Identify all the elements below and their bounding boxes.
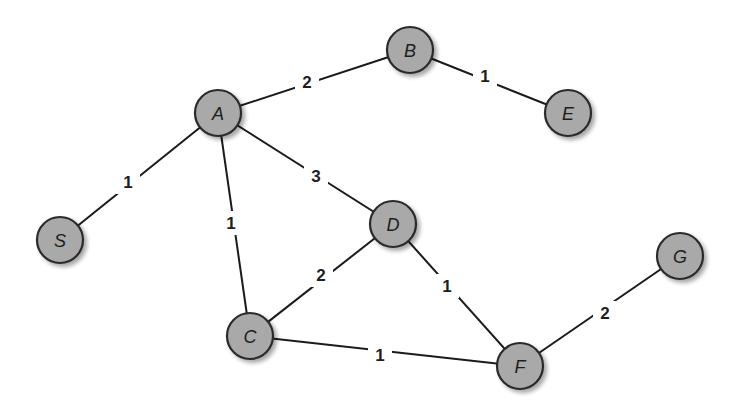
edge-weight-label: 1 <box>442 277 451 296</box>
edge-weight-label: 2 <box>316 266 325 285</box>
edge-weight-label: 3 <box>311 167 320 186</box>
nodes-layer: ABESDCFG <box>37 27 703 389</box>
edge-weight-label: 2 <box>302 73 311 92</box>
edge-weight-d-f: 1 <box>435 274 459 298</box>
node-label: B <box>404 41 416 61</box>
edge-weight-a-b: 2 <box>295 70 319 94</box>
graph-canvas: 211312112 ABESDCFG <box>0 0 739 420</box>
node-label: F <box>515 357 527 377</box>
edge-weight-f-g: 2 <box>593 301 617 325</box>
edge-weight-label: 1 <box>375 346 384 365</box>
node-e: E <box>545 90 591 136</box>
edge-weights-layer: 211312112 <box>116 64 617 367</box>
node-c: C <box>227 313 273 359</box>
node-s: S <box>37 217 83 263</box>
node-label: S <box>54 231 66 251</box>
edge-weight-b-e: 1 <box>473 64 497 88</box>
node-a: A <box>195 90 241 136</box>
node-label: E <box>562 104 575 124</box>
node-label: C <box>244 327 258 347</box>
edge-weight-a-d: 3 <box>304 164 328 188</box>
edges-layer <box>60 50 680 366</box>
node-label: A <box>211 104 224 124</box>
node-b: B <box>387 27 433 73</box>
node-label: G <box>673 247 687 267</box>
edge-weight-c-d: 2 <box>309 263 333 287</box>
edge-weight-a-s: 1 <box>116 170 140 194</box>
edge-weight-label: 1 <box>480 67 489 86</box>
node-label: D <box>387 215 400 235</box>
edge-weight-a-c: 1 <box>219 211 243 235</box>
edge-weight-label: 1 <box>226 214 235 233</box>
edge-weight-c-f: 1 <box>368 343 392 367</box>
edge-weight-label: 2 <box>600 304 609 323</box>
edge-weight-label: 1 <box>123 173 132 192</box>
node-f: F <box>497 343 543 389</box>
node-d: D <box>370 201 416 247</box>
node-g: G <box>657 233 703 279</box>
